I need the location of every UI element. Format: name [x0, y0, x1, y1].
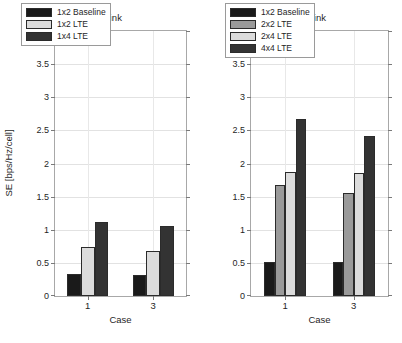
- y-tick-mark: [51, 64, 55, 65]
- y-tick-mark: [51, 230, 55, 231]
- gridline-horizontal: [55, 64, 186, 65]
- bar: [275, 185, 286, 296]
- y-tick-label: 1: [44, 225, 49, 235]
- y-tick-mark-right: [186, 31, 190, 32]
- legend-item[interactable]: 2x4 LTE: [230, 31, 310, 42]
- legend-label: 1x2 LTE: [57, 20, 88, 29]
- y-tick-label: 0: [240, 291, 245, 301]
- legend-item[interactable]: 1x2 Baseline: [230, 7, 310, 18]
- chart-panel-uplink: Uplink SE [bps/Hz/cell] 00.511.522.533.5…: [0, 0, 201, 330]
- gridline-horizontal: [55, 130, 186, 131]
- legend-item[interactable]: 1x2 LTE: [26, 19, 106, 30]
- legend-label: 1x4 LTE: [57, 32, 88, 41]
- y-tick-mark: [247, 263, 251, 264]
- legend-label: 2x4 LTE: [261, 32, 292, 41]
- y-tick-label: 3: [44, 92, 49, 102]
- x-axis-title: Case: [308, 314, 330, 325]
- y-tick-mark: [247, 97, 251, 98]
- y-tick-mark-right: [186, 164, 190, 165]
- y-tick-mark-right: [186, 64, 190, 65]
- legend-swatch-icon: [230, 32, 256, 41]
- y-tick-label: 1: [240, 225, 245, 235]
- y-tick-mark-right: [388, 64, 392, 65]
- y-tick-label: 3: [240, 92, 245, 102]
- y-tick-mark-right: [388, 130, 392, 131]
- y-tick-label: 3.5: [232, 59, 245, 69]
- bar: [160, 226, 174, 296]
- y-tick-mark-right: [388, 230, 392, 231]
- y-tick-mark: [51, 97, 55, 98]
- legend-downlink[interactable]: 1x2 Baseline2x2 LTE2x4 LTE4x4 LTE: [225, 3, 315, 58]
- y-tick-mark: [247, 164, 251, 165]
- y-tick-mark: [247, 295, 251, 296]
- legend-label: 4x4 LTE: [261, 44, 292, 53]
- legend-item[interactable]: 1x2 Baseline: [26, 7, 106, 18]
- legend-label: 1x2 Baseline: [261, 8, 310, 17]
- gridline-horizontal: [55, 97, 186, 98]
- gridline-horizontal: [251, 130, 388, 131]
- bar: [146, 251, 160, 296]
- legend-swatch-icon: [230, 20, 256, 29]
- y-tick-mark-right: [186, 197, 190, 198]
- bar: [343, 193, 354, 296]
- legend-swatch-icon: [26, 32, 52, 41]
- legend-label: 2x2 LTE: [261, 20, 292, 29]
- y-tick-mark: [247, 230, 251, 231]
- y-tick-mark-right: [388, 263, 392, 264]
- legend-label: 1x2 Baseline: [57, 8, 106, 17]
- plot-area-uplink: 00.511.522.533.5413Case: [54, 30, 187, 297]
- y-tick-mark-right: [186, 230, 190, 231]
- x-axis-title: Case: [109, 314, 131, 325]
- y-tick-label: 1.5: [232, 192, 245, 202]
- y-tick-mark-right: [388, 164, 392, 165]
- x-tick-label: 3: [151, 300, 156, 311]
- bar: [364, 136, 375, 296]
- gridline-horizontal: [251, 97, 388, 98]
- y-tick-mark: [51, 263, 55, 264]
- x-tick-label: 1: [85, 300, 90, 311]
- bar: [296, 119, 307, 296]
- bar: [354, 173, 365, 296]
- legend-swatch-icon: [230, 8, 256, 17]
- legend-item[interactable]: 4x4 LTE: [230, 43, 310, 54]
- chart-panel-downlink: Downlink 00.511.522.533.5413Case 1x2 Bas…: [201, 0, 402, 330]
- bar: [95, 222, 109, 296]
- y-axis-title-uplink: SE [bps/Hz/cell]: [3, 129, 14, 196]
- legend-uplink[interactable]: 1x2 Baseline1x2 LTE1x4 LTE: [21, 3, 111, 46]
- bar: [67, 274, 81, 296]
- y-tick-mark: [51, 197, 55, 198]
- y-tick-label: 0.5: [36, 258, 49, 268]
- x-tick-label: 3: [351, 300, 356, 311]
- y-tick-mark: [51, 164, 55, 165]
- y-tick-label: 2: [44, 159, 49, 169]
- y-tick-label: 2: [240, 159, 245, 169]
- y-tick-mark: [247, 130, 251, 131]
- y-tick-mark: [51, 295, 55, 296]
- legend-item[interactable]: 2x2 LTE: [230, 19, 310, 30]
- legend-swatch-icon: [230, 44, 256, 53]
- legend-item[interactable]: 1x4 LTE: [26, 31, 106, 42]
- bar: [264, 262, 275, 296]
- bar: [333, 262, 344, 296]
- y-tick-mark-right: [186, 263, 190, 264]
- y-tick-label: 2.5: [232, 125, 245, 135]
- y-tick-mark-right: [186, 130, 190, 131]
- plot-area-downlink: 00.511.522.533.5413Case: [250, 30, 389, 297]
- x-tick-label: 1: [283, 300, 288, 311]
- gridline-horizontal: [251, 64, 388, 65]
- y-tick-label: 0.5: [232, 258, 245, 268]
- y-tick-mark-right: [186, 97, 190, 98]
- y-tick-mark: [247, 197, 251, 198]
- y-tick-mark: [51, 130, 55, 131]
- gridline-horizontal: [55, 197, 186, 198]
- figure-bar-charts: Uplink SE [bps/Hz/cell] 00.511.522.533.5…: [0, 0, 402, 343]
- y-tick-label: 1.5: [36, 192, 49, 202]
- y-tick-mark-right: [388, 295, 392, 296]
- gridline-horizontal: [55, 164, 186, 165]
- y-tick-mark-right: [388, 97, 392, 98]
- legend-swatch-icon: [26, 8, 52, 17]
- legend-swatch-icon: [26, 20, 52, 29]
- y-tick-mark: [247, 64, 251, 65]
- bar: [133, 275, 147, 296]
- y-tick-mark-right: [186, 295, 190, 296]
